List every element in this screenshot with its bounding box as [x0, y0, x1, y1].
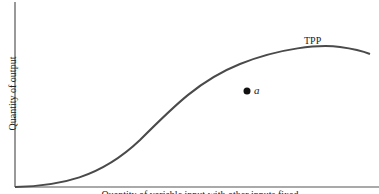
y-axis-label: Quantity of output: [7, 44, 18, 144]
point-a-marker: [244, 88, 251, 95]
tpp-curve: [15, 46, 370, 187]
x-axis-label: Quantity of variable input with other in…: [40, 189, 360, 194]
tpp-curve-label: TPP: [304, 35, 321, 46]
point-a-label: a: [254, 84, 260, 96]
chart-canvas: [0, 0, 379, 194]
